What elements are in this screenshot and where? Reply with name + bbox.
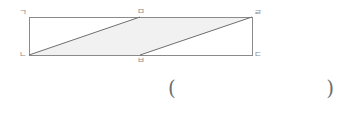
vertex-label-bottom-right: ㄷ [254, 50, 262, 59]
vertex-label-top-middle: ㅁ [137, 7, 145, 16]
close-paren: ) [326, 78, 334, 98]
shaded-parallelogram [29, 17, 252, 55]
answer-blank[interactable]: ( ) [168, 74, 334, 102]
vertex-label-bottom-middle: ㅂ [137, 56, 145, 65]
open-paren: ( [168, 78, 176, 98]
vertex-label-top-right: ㄹ [254, 8, 262, 17]
vertex-label-top-left: ㄱ [19, 8, 27, 17]
vertex-label-bottom-left: ㄴ [19, 50, 27, 59]
